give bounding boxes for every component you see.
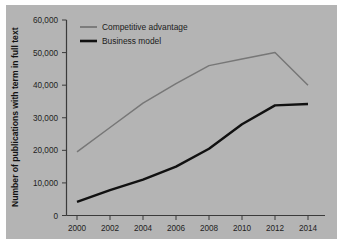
line-chart: 010,00020,00030,00040,00050,00060,000 20…: [0, 0, 343, 245]
x-tick-label: 2004: [134, 224, 153, 233]
series-line-competitive-advantage: [77, 53, 308, 152]
y-tick-label: 50,000: [33, 49, 58, 58]
y-tick-label: 20,000: [33, 146, 58, 155]
series-group: [77, 53, 308, 202]
x-tick-label: 2008: [200, 224, 219, 233]
x-tick-group: 20002002200420062008201020122014: [68, 216, 318, 234]
y-axis-title: Number of publications with term in full…: [10, 27, 20, 207]
x-tick-label: 2014: [299, 224, 318, 233]
legend-label-competitive-advantage: Competitive advantage: [102, 22, 188, 32]
x-tick-label: 2012: [266, 224, 285, 233]
chart-legend: Competitive advantage Business model: [80, 22, 188, 46]
y-tick-label: 10,000: [33, 179, 58, 188]
series-line-business-model: [77, 104, 308, 202]
y-tick-label: 0: [53, 212, 58, 221]
y-tick-label: 30,000: [33, 114, 58, 123]
x-tick-label: 2000: [68, 224, 87, 233]
x-tick-label: 2006: [167, 224, 186, 233]
y-tick-label: 60,000: [33, 16, 58, 25]
legend-label-business-model: Business model: [102, 36, 161, 46]
figure-container: 010,00020,00030,00040,00050,00060,000 20…: [0, 0, 343, 245]
y-tick-group: 010,00020,00030,00040,00050,00060,000: [33, 16, 67, 221]
y-tick-label: 40,000: [33, 81, 58, 90]
x-tick-label: 2002: [101, 224, 120, 233]
x-tick-label: 2010: [233, 224, 252, 233]
